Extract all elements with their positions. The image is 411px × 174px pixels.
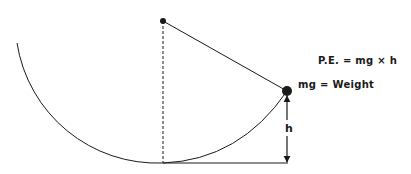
pivot-point (160, 18, 166, 24)
swing-arc-right (163, 91, 287, 163)
pendulum-bob (282, 86, 292, 96)
swing-arc (17, 43, 163, 163)
potential-energy-formula: P.E. = mg × h (318, 55, 397, 66)
pendulum-string (163, 21, 287, 91)
height-label: h (285, 122, 293, 135)
weight-definition: mg = Weight (298, 79, 374, 90)
